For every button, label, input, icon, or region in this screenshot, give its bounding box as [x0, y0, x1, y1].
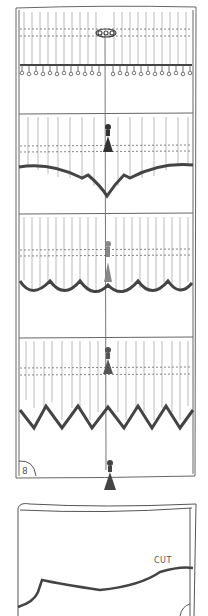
panel-scalloped-hem: [19, 213, 193, 292]
pull-cord: [105, 36, 106, 470]
bead-fringe: [20, 65, 192, 76]
arched-hem-edge: [19, 165, 193, 196]
cut-line: [18, 568, 193, 608]
tassel-icon: [103, 124, 113, 152]
panel-bead-fringe: [20, 12, 192, 76]
cut-label: CUT: [154, 556, 172, 565]
tassel-icon: [103, 347, 113, 374]
page-number: 8: [22, 466, 28, 476]
panel-arched-hem: [19, 113, 193, 196]
shade-styles-sketch: [0, 0, 208, 616]
zigzag-hem-edge: [20, 406, 193, 428]
